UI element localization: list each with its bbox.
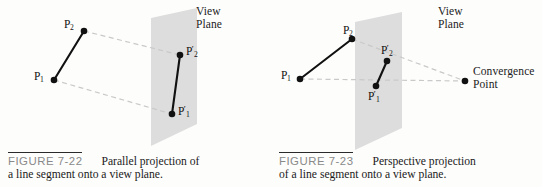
point-label-p1: P1 <box>34 70 44 82</box>
figure-7-22-panel: View Plane P1 P2 P′1 P′2 FIGURE 7-22Para… <box>0 0 271 187</box>
line-segment-p1-p2 <box>300 39 352 79</box>
caption-line-1: Perspective projection <box>373 155 476 168</box>
line-segment-p1-p2 <box>54 31 84 80</box>
point-label-p1: P1 <box>281 69 291 81</box>
point-dot-p2-prime <box>177 52 184 59</box>
point-label-p2-prime: P′2 <box>381 44 393 56</box>
point-dot-p2-prime <box>384 58 391 65</box>
figure-number: FIGURE 7-22 <box>8 155 83 167</box>
view-plane-shape <box>151 8 197 146</box>
point-label-p2-prime: P′2 <box>186 45 198 57</box>
point-dot-p1 <box>297 76 304 83</box>
view-plane-label: View Plane <box>438 5 464 30</box>
point-label-p1-prime: P′1 <box>368 90 380 102</box>
figure-7-22-caption: FIGURE 7-22Parallel projection of a line… <box>8 152 266 182</box>
point-dot-convergence <box>462 78 469 85</box>
point-label-p1-prime: P′1 <box>178 105 190 117</box>
caption-text: FIGURE 7-23Perspective projection of a l… <box>279 155 537 182</box>
view-plane-label: View Plane <box>196 5 222 30</box>
caption-rule <box>279 152 353 153</box>
figure-7-23-caption: FIGURE 7-23Perspective projection of a l… <box>279 152 537 182</box>
caption-text: FIGURE 7-22Parallel projection of a line… <box>8 155 266 182</box>
caption-line-2: of a line segment onto a view plane. <box>279 168 446 181</box>
figure-number: FIGURE 7-23 <box>279 155 354 167</box>
figure-7-23-panel: View Plane Convergence Point P1 P2 P′1 P… <box>271 0 542 187</box>
convergence-point-label: Convergence Point <box>473 65 535 90</box>
caption-line-1: Parallel projection of <box>102 155 200 168</box>
point-label-p2: P2 <box>64 18 74 30</box>
caption-rule <box>8 152 82 153</box>
point-dot-p2 <box>81 28 88 35</box>
point-dot-p1-prime <box>169 111 176 118</box>
point-dot-p1 <box>51 77 58 84</box>
figure-pair-page: View Plane P1 P2 P′1 P′2 FIGURE 7-22Para… <box>0 0 542 187</box>
point-label-p2: P2 <box>343 24 353 36</box>
caption-line-2: a line segment onto a view plane. <box>8 168 163 181</box>
